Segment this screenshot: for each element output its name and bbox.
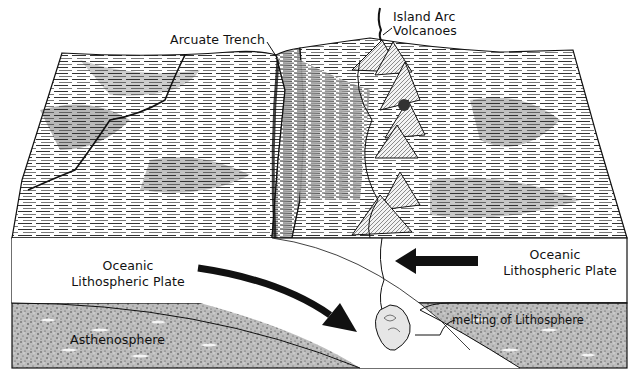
label-right-plate-line2: Lithospheric Plate xyxy=(490,263,630,278)
label-melting: melting of Lithosphere xyxy=(452,313,584,328)
label-island-arc-line2: Volcanoes xyxy=(393,23,457,38)
label-left-plate-line2: Lithospheric Plate xyxy=(58,274,198,289)
label-right-plate-line1: Oceanic xyxy=(500,247,610,262)
label-asthenosphere: Asthenosphere xyxy=(70,332,165,347)
label-arcuate-trench: Arcuate Trench xyxy=(170,32,265,47)
label-left-plate-line1: Oceanic xyxy=(78,258,178,273)
label-island-arc-line1: Island Arc xyxy=(393,9,455,24)
diagram-canvas: Arcuate Trench Island Arc Volcanoes Ocea… xyxy=(0,0,636,381)
